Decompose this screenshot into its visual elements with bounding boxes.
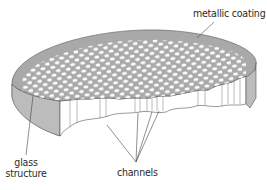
glass-structure-label-line2: structure bbox=[2, 168, 50, 179]
channels-label: channels bbox=[117, 167, 158, 178]
glass-structure-label: glass structure bbox=[2, 157, 50, 179]
microchannel-plate-diagram: metallic coating glass structure channel… bbox=[0, 0, 267, 190]
metallic-coating-label: metallic coating bbox=[193, 8, 265, 19]
